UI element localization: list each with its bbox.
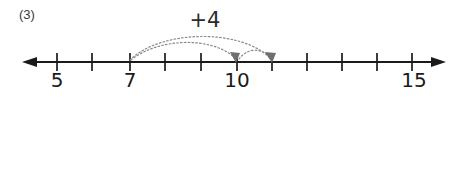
tick-label-7: 7 bbox=[124, 69, 137, 91]
tick-label-10: 10 bbox=[224, 69, 249, 91]
left-arrow-icon bbox=[22, 57, 37, 67]
arc-7-to-10 bbox=[131, 42, 235, 60]
worksheet-problem: (3) bbox=[0, 0, 471, 173]
jump-arcs bbox=[130, 36, 270, 60]
equation-row: 7 + 4 = bbox=[0, 104, 471, 173]
tick-label-15: 15 bbox=[401, 69, 426, 91]
tick-label-5: 5 bbox=[51, 69, 64, 91]
jump-amount-label: +4 bbox=[190, 9, 221, 32]
right-arrow-icon bbox=[431, 57, 446, 67]
